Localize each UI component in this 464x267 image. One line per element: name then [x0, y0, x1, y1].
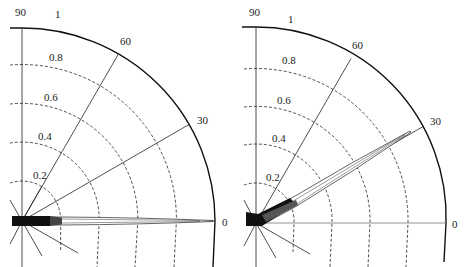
right-polar-plot: 90 1 60 30 0 0.8 0.6 0.4 0.2 [242, 6, 458, 267]
angle-label-0: 0 [452, 218, 458, 230]
angle-label-60: 60 [352, 39, 364, 51]
left-polar-plot: 90 1 60 30 0 0.8 0.6 0.4 0.2 [10, 6, 228, 267]
angle-label-0: 0 [222, 216, 228, 228]
radial-grid [244, 69, 408, 267]
radial-label-0.4: 0.4 [38, 130, 52, 142]
polar-figure: 90 1 60 30 0 0.8 0.6 0.4 0.2 [0, 0, 464, 267]
angle-label-30: 30 [197, 114, 209, 126]
radial-label-0.4: 0.4 [272, 132, 286, 144]
angle-label-30: 30 [430, 115, 442, 127]
outer-arc [242, 27, 446, 262]
angle-label-90: 90 [15, 6, 27, 18]
radial-label-0.2: 0.2 [33, 169, 47, 181]
radial-label-0.6: 0.6 [277, 94, 291, 106]
radial-label-0.8: 0.8 [282, 54, 296, 66]
radial-label-1: 1 [55, 8, 61, 20]
radial-label-0.2: 0.2 [266, 171, 280, 183]
angle-spokes [244, 27, 446, 267]
angle-label-60: 60 [120, 35, 132, 47]
main-lobe [12, 216, 213, 226]
radial-label-0.6: 0.6 [44, 91, 58, 103]
radial-label-0.8: 0.8 [49, 51, 63, 63]
radial-label-1: 1 [288, 13, 294, 25]
angle-label-90: 90 [249, 6, 261, 18]
radial-grid [10, 65, 176, 267]
